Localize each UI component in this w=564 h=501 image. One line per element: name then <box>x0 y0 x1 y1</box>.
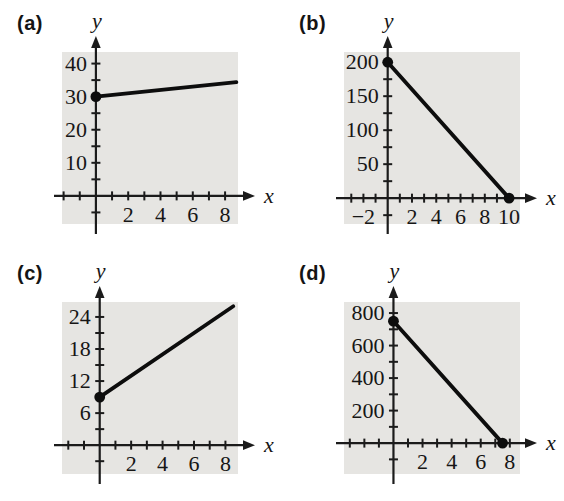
y-tick-label: 6 <box>80 400 91 425</box>
x-tick-label: 10 <box>498 204 520 229</box>
x-tick-label: 8 <box>504 449 515 474</box>
y-axis-label: y <box>90 8 102 33</box>
chart-b: −224681050100150200xy <box>282 0 564 250</box>
y-tick-label: 200 <box>346 49 379 74</box>
x-axis-label: x <box>263 432 274 457</box>
x-tick-label: 8 <box>220 202 231 227</box>
y-axis-label: y <box>94 258 106 283</box>
x-tick-label: 4 <box>431 204 442 229</box>
x-tick-label: 4 <box>446 449 457 474</box>
x-tick-label: 8 <box>479 204 490 229</box>
panel-a: (a) 246810203040xy <box>0 0 282 250</box>
x-tick-label: 6 <box>455 204 466 229</box>
x-axis-arrowhead-icon <box>243 440 255 450</box>
x-tick-label: 8 <box>220 451 231 476</box>
data-point <box>382 57 393 68</box>
y-axis-arrowhead-icon <box>389 286 399 298</box>
x-axis-arrowhead-icon <box>525 438 537 448</box>
x-tick-label: −2 <box>352 204 375 229</box>
x-tick-label: 4 <box>157 451 168 476</box>
x-tick-label: 2 <box>406 204 417 229</box>
y-tick-label: 400 <box>351 365 384 390</box>
panel-d-label: (d) <box>299 262 326 285</box>
figure-grid: (a) 246810203040xy (b) −2246810501001502… <box>0 0 564 501</box>
y-tick-label: 20 <box>65 117 87 142</box>
data-point <box>91 91 102 102</box>
y-tick-label: 30 <box>65 84 87 109</box>
data-point <box>94 392 105 403</box>
y-tick-label: 24 <box>69 304 91 329</box>
panel-b-label: (b) <box>299 12 326 35</box>
y-tick-label: 150 <box>346 83 379 108</box>
x-tick-label: 2 <box>123 202 134 227</box>
y-tick-label: 600 <box>351 333 384 358</box>
page: (a) 246810203040xy (b) −2246810501001502… <box>0 0 564 501</box>
x-axis-label: x <box>545 185 556 210</box>
panel-c-label: (c) <box>17 262 43 285</box>
plot-area <box>62 52 238 224</box>
y-tick-label: 12 <box>69 368 91 393</box>
y-tick-label: 50 <box>357 151 379 176</box>
y-tick-label: 10 <box>65 150 87 175</box>
chart-c: 24686121824xy <box>0 250 282 501</box>
x-axis-label: x <box>545 430 556 455</box>
x-tick-label: 6 <box>187 202 198 227</box>
y-axis-arrowhead-icon <box>91 36 101 48</box>
panel-c: (c) 24686121824xy <box>0 250 282 501</box>
chart-a: 246810203040xy <box>0 0 282 250</box>
x-tick-label: 6 <box>189 451 200 476</box>
y-axis-label: y <box>388 258 400 283</box>
x-tick-label: 4 <box>155 202 166 227</box>
x-tick-label: 6 <box>475 449 486 474</box>
y-tick-label: 18 <box>69 336 91 361</box>
panel-b: (b) −224681050100150200xy <box>282 0 564 250</box>
x-axis-label: x <box>263 183 274 208</box>
data-point <box>497 438 508 449</box>
x-tick-label: 2 <box>126 451 137 476</box>
x-axis-arrowhead-icon <box>243 191 255 201</box>
y-axis-arrowhead-icon <box>95 286 105 298</box>
data-point <box>388 316 399 327</box>
x-axis-arrowhead-icon <box>525 193 537 203</box>
y-tick-label: 40 <box>65 51 87 76</box>
y-tick-label: 100 <box>346 117 379 142</box>
data-point <box>504 193 515 204</box>
panel-d: (d) 2468200400600800xy <box>282 250 564 501</box>
y-tick-label: 800 <box>351 300 384 325</box>
y-axis-label: y <box>382 8 394 33</box>
x-tick-label: 2 <box>417 449 428 474</box>
panel-a-label: (a) <box>17 12 43 35</box>
y-axis-arrowhead-icon <box>383 36 393 48</box>
y-tick-label: 200 <box>351 398 384 423</box>
chart-d: 2468200400600800xy <box>282 250 564 501</box>
